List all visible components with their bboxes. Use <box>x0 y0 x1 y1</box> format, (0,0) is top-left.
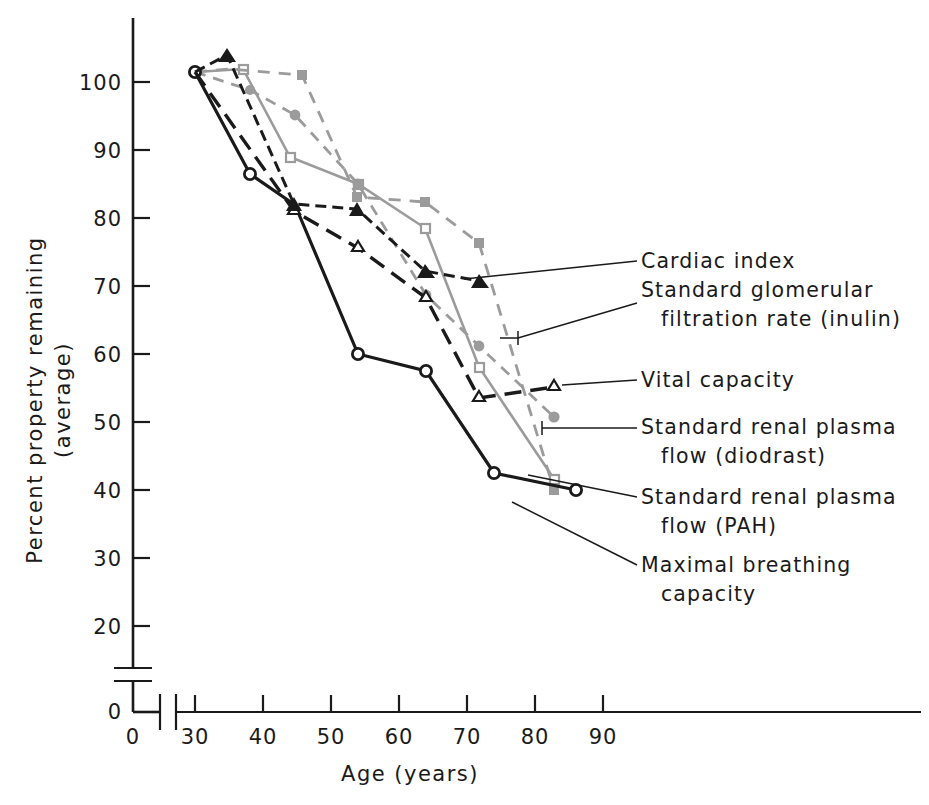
y-tick-labels: 100 90 80 70 60 50 40 30 20 0 <box>79 71 122 724</box>
annotation-srpf-diodrast-line1: Standard renal plasma <box>641 415 897 439</box>
annotation-vital-capacity: Vital capacity <box>641 368 795 392</box>
leader-max-breathing <box>512 502 637 565</box>
x-tick-label-90: 90 <box>589 725 618 749</box>
y-tick-label-80: 80 <box>93 207 122 231</box>
series-cardiac-index <box>195 69 559 495</box>
annotation-labels: Cardiac index Standard glomerular filtra… <box>641 249 901 606</box>
annotation-srpf-diodrast-line2: flow (diodrast) <box>661 444 826 468</box>
leader-srpf-pah <box>528 475 637 497</box>
y-tick-label-30: 30 <box>93 547 122 571</box>
annotation-cardiac-index: Cardiac index <box>641 249 795 273</box>
figure-container: 100 90 80 70 60 50 40 30 20 0 0 30 40 50… <box>0 0 929 805</box>
x-tick-label-80: 80 <box>521 725 550 749</box>
x-tick-label-60: 60 <box>385 725 414 749</box>
series-vital-capacity <box>195 72 560 401</box>
x-axis-title: Age (years) <box>341 762 479 786</box>
annotation-sgfr-line1: Standard glomerular <box>641 278 874 302</box>
leader-vital-capacity <box>562 380 637 385</box>
y-tick-label-20: 20 <box>93 615 122 639</box>
y-tick-label-70: 70 <box>93 275 122 299</box>
line-chart: 100 90 80 70 60 50 40 30 20 0 0 30 40 50… <box>0 0 929 805</box>
annotation-sgfr-line2: filtration rate (inulin) <box>661 307 901 331</box>
annotation-max-breathing-line2: capacity <box>661 582 756 606</box>
x-tick-labels: 0 30 40 50 60 70 80 90 <box>126 725 618 749</box>
y-tick-label-100: 100 <box>79 71 122 95</box>
x-tick-label-40: 40 <box>249 725 278 749</box>
y-tick-label-40: 40 <box>93 479 122 503</box>
series-srpf-diodrast <box>195 72 560 423</box>
y-axis-title-line1: Percent property remaining <box>23 236 47 563</box>
annotation-srpf-pah-line2: flow (PAH) <box>661 514 777 538</box>
y-tick-label-90: 90 <box>93 139 122 163</box>
y-tick-label-60: 60 <box>93 343 122 367</box>
leader-sgfr <box>500 303 637 338</box>
leader-cardiac-index <box>464 261 637 279</box>
x-tick-label-50: 50 <box>317 725 346 749</box>
y-axis-title: Percent property remaining (average) <box>23 236 75 563</box>
x-tick-label-30: 30 <box>181 725 210 749</box>
annotation-max-breathing-line1: Maximal breathing <box>641 553 851 577</box>
marker-filled-square-group <box>297 70 559 495</box>
annotation-srpf-pah-line1: Standard renal plasma <box>641 485 897 509</box>
y-tick-label-50: 50 <box>93 411 122 435</box>
y-tick-label-0: 0 <box>108 700 122 724</box>
y-axis-title-line2: (average) <box>51 342 75 458</box>
x-tick-label-70: 70 <box>453 725 482 749</box>
x-tick-label-0: 0 <box>126 725 140 749</box>
